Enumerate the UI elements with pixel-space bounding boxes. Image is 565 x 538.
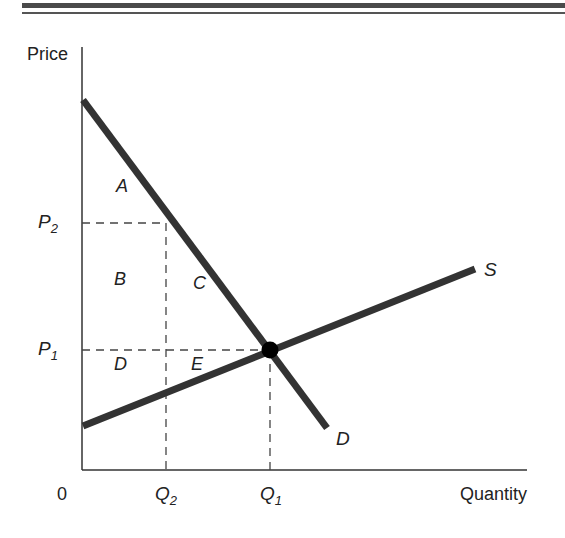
q1-label: Q1 [260, 483, 282, 508]
supply-curve [83, 269, 475, 426]
equilibrium-point [262, 342, 279, 359]
origin-label: 0 [57, 484, 67, 504]
q2-label: Q2 [155, 483, 178, 508]
supply-demand-diagram: Price Quantity 0 P2 P1 Q2 Q1 D S A B C D… [0, 0, 565, 538]
region-c-label: C [193, 273, 207, 293]
region-b-label: B [114, 269, 126, 289]
x-axis-label: Quantity [460, 484, 527, 504]
supply-label: S [484, 259, 497, 280]
region-e-label: E [191, 354, 204, 374]
p2-label: P2 [38, 211, 59, 236]
region-a-label: A [115, 176, 128, 196]
y-axis-label: Price [27, 44, 68, 64]
region-d-label: D [114, 354, 127, 374]
p1-label: P1 [38, 338, 58, 363]
demand-label: D [336, 428, 350, 449]
